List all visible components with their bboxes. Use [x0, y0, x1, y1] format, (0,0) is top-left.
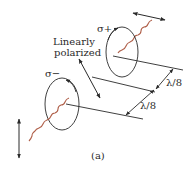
sigma-minus-label: σ− [45, 68, 60, 79]
linearly-label: Linearly [53, 36, 95, 47]
polarized-label: polarized [54, 47, 102, 58]
polarization-diagram: σ+ Linearly polarized λ/8 λ/8 σ− (a) [0, 0, 196, 172]
top-polarization-double-arrow [133, 13, 165, 20]
linear-reference-line [92, 77, 155, 92]
sigma-plus-label: σ+ [97, 23, 112, 34]
sigma-plus-reference-line [113, 56, 183, 70]
figure-caption: (a) [91, 150, 105, 161]
lambda-upper-label: λ/8 [166, 77, 182, 88]
lambda-lower-label: λ/8 [140, 100, 156, 111]
sigma-minus-reference-line [66, 104, 143, 119]
sigma-minus-wave [29, 98, 69, 141]
